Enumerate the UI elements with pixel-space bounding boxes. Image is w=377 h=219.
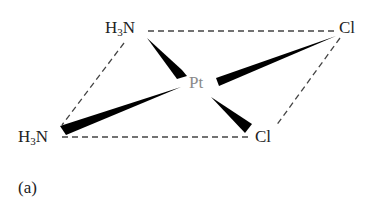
bond-pt-bottom-cl — [211, 97, 252, 133]
bond-pt-top-cl — [216, 36, 336, 86]
center-atom-pt: Pt — [189, 74, 203, 91]
bond-pt-bottom-nh3 — [60, 87, 181, 135]
molecule-diagram — [0, 0, 377, 219]
bond-pt-top-nh3 — [147, 38, 187, 79]
ligand-cl-bottom: Cl — [255, 128, 271, 145]
ligand-cl-top: Cl — [339, 19, 355, 36]
dash-right — [276, 38, 340, 126]
ligand-nh3-bottom: H3N — [18, 128, 48, 147]
ligand-nh3-top: H3N — [105, 19, 135, 38]
panel-label: (a) — [18, 179, 37, 196]
